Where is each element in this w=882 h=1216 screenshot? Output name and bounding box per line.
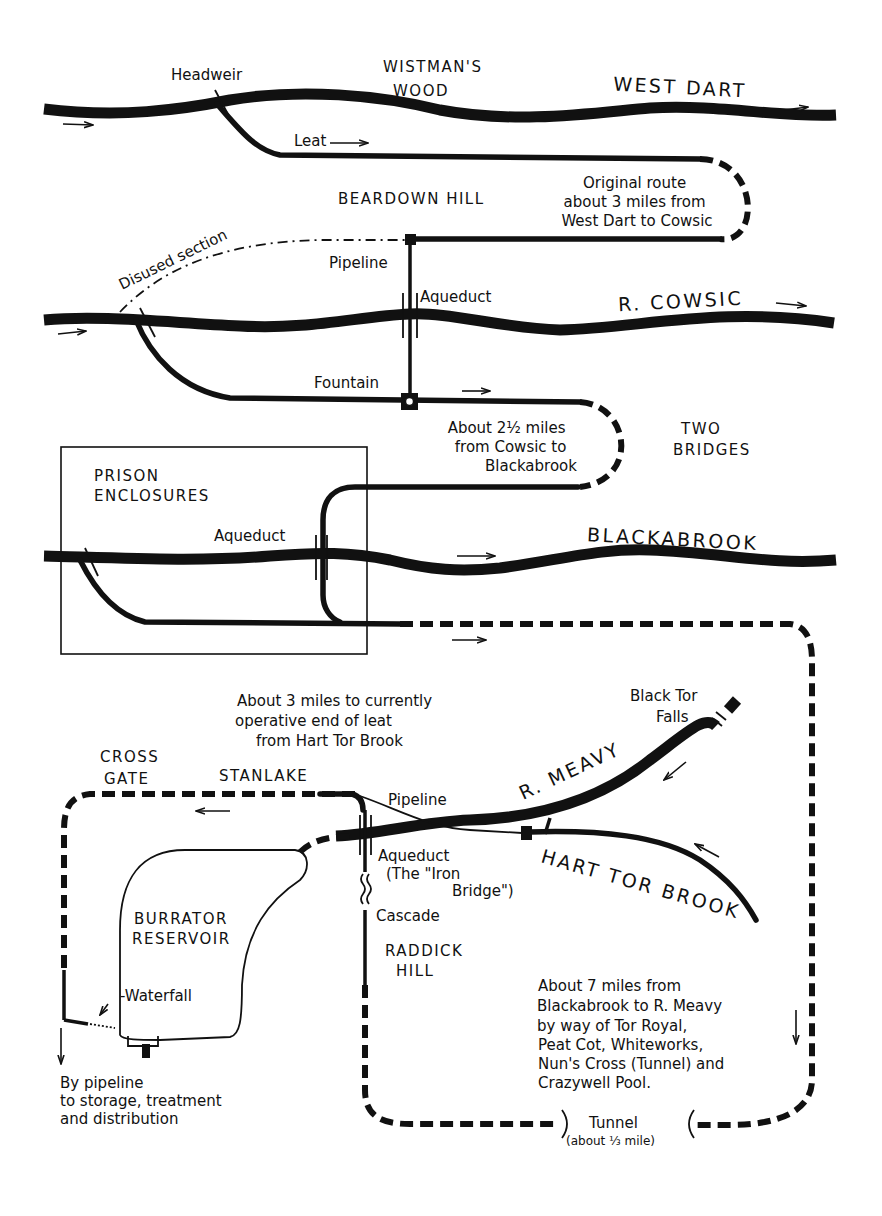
leat-route-map: Headweir WISTMAN'S WOOD WEST DART Leat O… xyxy=(0,0,882,1216)
cowsic-label: R. COWSIC xyxy=(618,287,744,316)
tunnel-length-label: (about ⅓ mile) xyxy=(566,1134,655,1148)
raddick-leat-dashed xyxy=(365,985,555,1124)
distribution-note: By pipeline to storage, treatment and di… xyxy=(60,1074,226,1128)
pipeline-upper-label: Pipeline xyxy=(329,254,388,272)
two-bridges-label-2: BRIDGES xyxy=(673,441,751,459)
blackabrook-meavy-note: About 7 miles from Blackabrook to R. Mea… xyxy=(537,977,729,1092)
headweir-label: Headweir xyxy=(171,66,243,84)
black-tor-falls-mark xyxy=(716,712,726,720)
cowsic-river xyxy=(44,314,834,330)
burrator-reservoir-label-2: RESERVOIR xyxy=(132,930,231,948)
cowsic-blackabrook-dashed xyxy=(580,402,621,487)
cross-gate-label: CROSS xyxy=(100,748,159,766)
prison-enclosures-label: PRISON xyxy=(94,467,159,485)
reservoir-inflow-dashed xyxy=(300,836,355,852)
cross-gate-label-2: GATE xyxy=(104,770,149,788)
tunnel-label: Tunnel xyxy=(588,1114,638,1132)
dam-outlet-pipe xyxy=(142,1044,150,1058)
burrator-reservoir-label: BURRATOR xyxy=(134,910,228,928)
leat-channel-blackabrook xyxy=(80,560,400,624)
wistmans-wood-label: WISTMAN'S xyxy=(383,58,483,76)
tunnel-exit-mark xyxy=(689,1110,694,1138)
aqueduct-cowsic-label: Aqueduct xyxy=(420,288,492,306)
flow-arrow-icon xyxy=(776,303,806,306)
black-tor-falls-label-2: Falls xyxy=(656,708,689,726)
blackabrook-river xyxy=(44,550,836,570)
hart-tor-brook-label: HART TOR BROOK xyxy=(539,845,743,923)
cascade-mark xyxy=(361,874,365,904)
cascade-label: Cascade xyxy=(376,907,440,925)
waterfall-dashes xyxy=(90,1024,115,1028)
west-dart-label: WEST DART xyxy=(613,73,748,102)
original-route-note: Original route about 3 miles from West D… xyxy=(561,174,712,230)
pipeline-lower-label: Pipeline xyxy=(388,791,447,809)
meavy-upper-segment xyxy=(728,700,737,710)
hart-tor-note: About 3 miles to currently operative end… xyxy=(235,692,437,750)
waterfall-pointer xyxy=(100,1004,108,1015)
flow-arrow-icon xyxy=(664,762,686,780)
disused-section-line xyxy=(120,240,405,312)
stanlake-leat-solid xyxy=(320,794,363,810)
meavy-label: R. MEAVY xyxy=(515,737,623,803)
flow-arrow-icon xyxy=(63,124,93,125)
aqueduct-iron-bridge-label: Aqueduct (The "Iron Bridge") xyxy=(378,847,514,900)
raddick-hill-label-2: HILL xyxy=(396,962,434,980)
prison-enclosures-label-2: ENCLOSURES xyxy=(94,487,210,505)
wistmans-wood-label-2: WOOD xyxy=(393,82,449,100)
two-bridges-label: TWO xyxy=(680,420,721,438)
hart-tor-intake xyxy=(521,826,532,840)
fountain-icon xyxy=(406,398,414,406)
flow-arrow-icon xyxy=(58,331,86,334)
cowsic-blackabrook-note: About 2½ miles from Cowsic to Blackabroo… xyxy=(448,419,578,475)
cascade-mark xyxy=(367,874,371,904)
black-tor-falls-label: Black Tor xyxy=(630,687,698,705)
raddick-hill-label: RADDICK xyxy=(385,942,463,960)
beardown-hill-label: BEARDOWN HILL xyxy=(338,190,485,208)
outflow-leat-horizontal xyxy=(64,1020,88,1024)
aqueduct-blackabrook-label: Aqueduct xyxy=(214,527,286,545)
flow-arrow-icon xyxy=(695,844,719,857)
stanlake-label: STANLAKE xyxy=(219,767,308,785)
leat-label: Leat xyxy=(294,132,327,150)
fountain-label: Fountain xyxy=(314,374,379,392)
disused-section-label: Disused section xyxy=(116,226,230,294)
waterfall-label: -Waterfall xyxy=(120,987,192,1005)
